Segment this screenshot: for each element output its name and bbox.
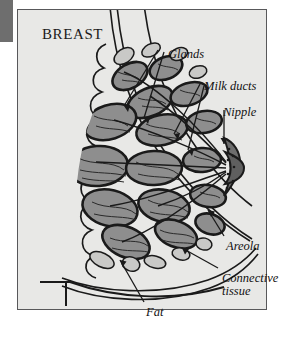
label-areola: Areola bbox=[226, 240, 260, 253]
figure-title: BREAST bbox=[42, 26, 103, 43]
nipple-areola bbox=[224, 138, 244, 196]
breast-anatomy-figure: BREAST Glands Milk ducts Nipple Areola C… bbox=[0, 0, 285, 337]
label-glands: Glands bbox=[168, 48, 204, 61]
illustration-plate: BREAST Glands Milk ducts Nipple Areola C… bbox=[17, 9, 267, 310]
breast-cross-section-drawing bbox=[18, 10, 265, 308]
chest-wall-baseline bbox=[40, 282, 224, 306]
label-nipple: Nipple bbox=[223, 106, 256, 119]
page-spine-bar bbox=[0, 0, 13, 42]
label-fat: Fat bbox=[146, 306, 163, 319]
label-connective-tissue-line2: tissue bbox=[222, 285, 250, 298]
label-milk-ducts: Milk ducts bbox=[204, 80, 256, 93]
